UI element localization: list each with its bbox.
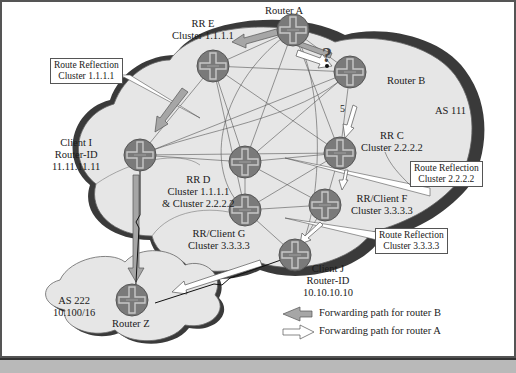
router-e-icon[interactable] (197, 50, 229, 82)
router-c-cluster: Cluster 2.2.2.2 (361, 142, 423, 154)
router-c-name: RR C (361, 130, 423, 142)
as222-label: AS 222 10.100/16 (53, 295, 95, 319)
router-b-icon[interactable] (334, 56, 366, 88)
link-metric-label: 5 (340, 103, 345, 115)
legend-router-a: Forwarding path for router A (319, 325, 441, 336)
router-z-label: Router Z (112, 318, 150, 330)
callout-3-title: Route Reflection (379, 230, 444, 241)
figure-caption-bar (0, 358, 516, 373)
as111-label: AS 111 (435, 105, 466, 117)
router-f-label: RR/Client F Cluster 3.3.3.3 (351, 193, 413, 217)
router-e-name: RR E (172, 18, 234, 30)
callout-route-reflection-cluster-1: Route Reflection Cluster 1.1.1.1 (50, 58, 123, 84)
router-a-icon[interactable] (277, 14, 309, 46)
legend-arrow-router-a-icon (283, 325, 314, 339)
svg-text:?: ? (322, 44, 332, 66)
router-a-label: Router A (265, 5, 303, 17)
client-j-routerid: 10.10.10.10 (303, 287, 353, 299)
legend-router-b: Forwarding path for router B (319, 307, 441, 318)
router-f-cluster: Cluster 3.3.3.3 (351, 205, 413, 217)
router-f-name: RR/Client F (351, 193, 413, 205)
callout-2-cluster: Cluster 2.2.2.2 (414, 174, 479, 185)
client-i-routerid: 11.11.11.11 (52, 161, 100, 173)
callout-1-cluster: Cluster 1.1.1.1 (54, 71, 119, 82)
router-g-cluster: Cluster 3.3.3.3 (188, 240, 250, 252)
router-e-cluster: Cluster 1.1.1.1 (172, 30, 234, 42)
as222-prefix: 10.100/16 (53, 307, 95, 319)
client-j-name: Client J (303, 263, 353, 275)
callout-1-title: Route Reflection (54, 60, 119, 71)
client-i-label: Client I Router-ID 11.11.11.11 (52, 137, 100, 173)
router-d-cluster-1: Cluster 1.1.1.1 (162, 186, 235, 198)
figure-frame: ? RR E Cluster 1.1.1.1 Router A Router B… (0, 0, 516, 373)
router-d-label: RR D Cluster 1.1.1.1 & Cluster 2.2.2.2 (162, 174, 235, 210)
legend-arrow-router-b-icon (283, 307, 312, 321)
callout-route-reflection-cluster-3: Route Reflection Cluster 3.3.3.3 (375, 228, 448, 254)
client-i-name: Client I (52, 137, 100, 149)
router-c-label: RR C Cluster 2.2.2.2 (361, 130, 423, 154)
callout-route-reflection-cluster-2: Route Reflection Cluster 2.2.2.2 (410, 161, 483, 187)
question-mark-icon: ? (322, 44, 332, 68)
router-f-icon[interactable] (309, 189, 341, 221)
router-d-name: RR D (162, 174, 235, 186)
router-g-name: RR/Client G (188, 228, 250, 240)
client-j-routerid-label: Router-ID (303, 275, 353, 287)
router-e-label: RR E Cluster 1.1.1.1 (172, 18, 234, 42)
client-i-routerid-label: Router-ID (52, 149, 100, 161)
router-d-cluster-2: & Cluster 2.2.2.2 (162, 198, 235, 210)
router-g-label: RR/Client G Cluster 3.3.3.3 (188, 228, 250, 252)
callout-3-cluster: Cluster 3.3.3.3 (379, 241, 444, 252)
router-c-icon[interactable] (324, 137, 356, 169)
router-i-icon[interactable] (124, 139, 156, 171)
callout-2-title: Route Reflection (414, 163, 479, 174)
client-j-label: Client J Router-ID 10.10.10.10 (303, 263, 353, 299)
router-z-icon[interactable] (116, 284, 148, 316)
router-b-label: Router B (387, 75, 425, 87)
as222-name: AS 222 (53, 295, 95, 307)
